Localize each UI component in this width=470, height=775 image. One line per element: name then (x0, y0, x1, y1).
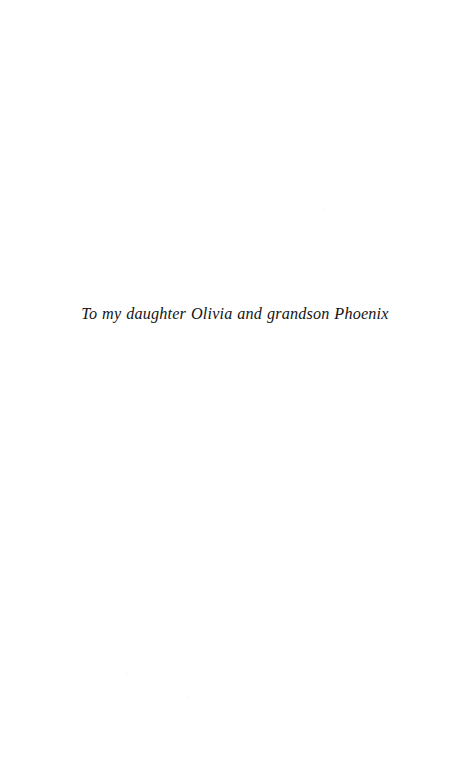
dedication-page: To my daughter Olivia and grandson Phoen… (0, 0, 470, 775)
dedication-text: To my daughter Olivia and grandson Phoen… (81, 303, 388, 325)
dedication-block: To my daughter Olivia and grandson Phoen… (0, 303, 470, 325)
paper-texture (0, 0, 470, 775)
